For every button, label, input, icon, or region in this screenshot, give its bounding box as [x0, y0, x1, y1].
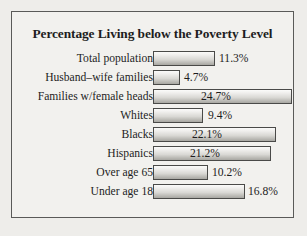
category-label: Blacks — [121, 126, 153, 144]
category-label: Whites — [120, 107, 153, 125]
bar — [153, 51, 215, 66]
category-label: Total population — [77, 50, 153, 68]
bar-row: Hispanics 21.2% — [12, 145, 295, 163]
bar-row: Whites 9.4% — [12, 107, 295, 125]
bar-value-label: 16.8% — [248, 183, 278, 201]
bar — [153, 108, 203, 123]
bar — [153, 165, 208, 180]
bar-value-label: 4.7% — [184, 69, 208, 87]
bar-row: Families w/female heads 24.7% — [12, 88, 295, 106]
bar-value-label: 9.4% — [208, 107, 232, 125]
category-label: Husband–wife families — [45, 69, 153, 87]
bar-value-label: 11.3% — [219, 50, 249, 68]
bar — [153, 70, 180, 85]
bar — [153, 184, 245, 199]
bar-row: Blacks 22.1% — [12, 126, 295, 144]
plot-area: Total population 11.3% Husband–wife fami… — [12, 50, 295, 210]
category-label: Hispanics — [107, 145, 153, 163]
bar-row: Husband–wife families 4.7% — [12, 69, 295, 87]
bar-row: Over age 65 10.2% — [12, 164, 295, 182]
category-label: Under age 18 — [91, 183, 153, 201]
bar-value-label: 10.2% — [212, 164, 242, 182]
chart-title: Percentage Living below the Poverty Leve… — [12, 26, 293, 42]
chart-figure: Percentage Living below the Poverty Leve… — [11, 11, 294, 218]
bar-value-label: 21.2% — [190, 145, 220, 163]
bar-value-label: 24.7% — [201, 88, 231, 106]
bar-value-label: 22.1% — [192, 126, 222, 144]
category-label: Families w/female heads — [38, 88, 153, 106]
category-label: Over age 65 — [96, 164, 153, 182]
bar-row: Total population 11.3% — [12, 50, 295, 68]
bar-row: Under age 18 16.8% — [12, 183, 295, 201]
